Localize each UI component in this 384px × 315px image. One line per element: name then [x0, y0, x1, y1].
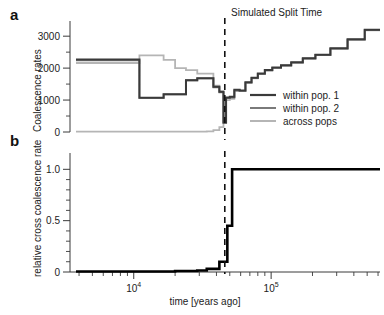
- chart-legend: within pop. 1within pop. 2across pops: [250, 90, 340, 127]
- panel-b-label: b: [10, 132, 19, 149]
- y-axis-tick-label: 2000: [38, 63, 61, 74]
- figure-container: a b Coalescence rates relative cross coa…: [0, 0, 384, 315]
- x-axis-title: time [years ago]: [169, 296, 240, 307]
- coalescence-rate-figure: a b Coalescence rates relative cross coa…: [0, 0, 384, 315]
- y-axis-tick-label: 1.0: [46, 164, 60, 175]
- y-axis-tick-label: 3000: [38, 31, 61, 42]
- panel-b-y-axis-title: relative cross coalescence rate: [32, 139, 43, 277]
- panel-a-label: a: [10, 6, 19, 23]
- legend-label-within-pop-2: within pop. 2: [282, 103, 340, 114]
- y-axis-tick-label: 0: [54, 267, 60, 278]
- split-time-annotation: Simulated Split Time: [231, 7, 323, 18]
- y-axis-tick-label: 0.5: [46, 215, 60, 226]
- legend-label-across-pops: across pops: [283, 116, 337, 127]
- y-axis-tick-label: 0: [54, 127, 60, 138]
- y-axis-tick-label: 1000: [38, 95, 61, 106]
- legend-label-within-pop-1: within pop. 1: [282, 90, 340, 101]
- panel-a-y-axis-title: Coalescence rates: [32, 49, 43, 132]
